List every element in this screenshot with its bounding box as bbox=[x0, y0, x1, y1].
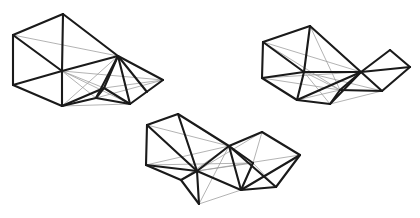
mesh-edge bbox=[229, 132, 262, 146]
mesh-edge bbox=[390, 50, 410, 67]
mesh-edge bbox=[361, 67, 410, 72]
mesh-edge bbox=[197, 171, 241, 190]
mesh-edge bbox=[13, 14, 63, 35]
mesh-edge bbox=[310, 26, 361, 72]
mesh-bottom-minor-edges bbox=[146, 114, 300, 204]
mesh-edge bbox=[146, 125, 147, 165]
mesh-edge bbox=[62, 14, 63, 71]
mesh-edge bbox=[262, 132, 300, 155]
mesh-edge bbox=[104, 56, 118, 88]
mesh-edge bbox=[304, 26, 310, 72]
mesh-edge bbox=[297, 72, 361, 100]
mesh-edge bbox=[181, 180, 199, 204]
mesh-edge bbox=[197, 171, 199, 204]
mesh-edge bbox=[62, 71, 104, 88]
mesh-edge bbox=[382, 67, 410, 91]
mesh-bottom-major-edges bbox=[146, 114, 300, 204]
mesh-edge bbox=[13, 35, 62, 71]
mesh-edge bbox=[63, 14, 118, 56]
mesh-edge bbox=[178, 114, 229, 146]
major-edge-layer bbox=[13, 14, 410, 204]
wireframe-figure-svg bbox=[0, 0, 420, 218]
mesh-edge bbox=[13, 85, 62, 106]
mesh-edge bbox=[263, 26, 310, 42]
mesh-edge bbox=[340, 90, 382, 91]
mesh-edge bbox=[340, 72, 361, 90]
wireframe-figure-canvas bbox=[0, 0, 420, 218]
mesh-edge bbox=[229, 146, 276, 187]
mesh-edge bbox=[297, 72, 304, 100]
mesh-left-major-edges bbox=[13, 14, 163, 106]
mesh-edge bbox=[263, 42, 304, 72]
mesh-edge bbox=[181, 171, 197, 180]
mesh-edge bbox=[263, 42, 361, 72]
mesh-edge bbox=[276, 155, 300, 187]
mesh-edge bbox=[297, 100, 330, 104]
mesh-edge bbox=[147, 114, 178, 125]
mesh-right-major-edges bbox=[262, 26, 410, 104]
mesh-edge bbox=[262, 78, 297, 100]
mesh-edge bbox=[13, 71, 62, 85]
mesh-edge bbox=[262, 42, 263, 78]
